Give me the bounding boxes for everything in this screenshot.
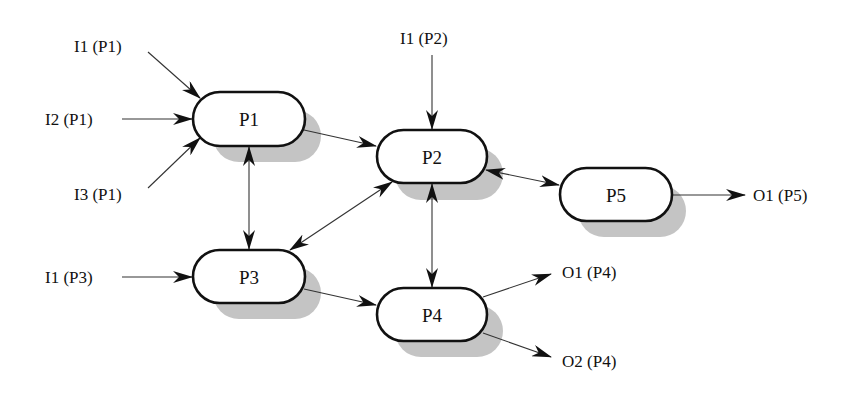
edge-i1p1 <box>148 52 200 98</box>
edge-p2-p3 <box>290 182 392 250</box>
node-p5: P5 <box>560 168 672 221</box>
node-p1: P1 <box>193 92 305 146</box>
input-label-i1-p1: I1 (P1) <box>74 37 122 56</box>
node-p3: P3 <box>193 250 305 303</box>
node-p4: P4 <box>377 288 487 341</box>
input-label-i1-p2: I1 (P2) <box>400 29 448 48</box>
output-label-o1-p5: O1 (P5) <box>753 186 807 205</box>
node-label: P2 <box>422 147 442 168</box>
output-label-o1-p4: O1 (P4) <box>562 263 616 282</box>
input-label-i1-p3: I1 (P3) <box>45 268 93 287</box>
edge-i3p1 <box>148 138 200 188</box>
node-label: P3 <box>239 267 259 288</box>
edge-p4-o1 <box>483 274 551 297</box>
input-label-i3-p1: I3 (P1) <box>74 185 122 204</box>
output-label-o2-p4: O2 (P4) <box>562 352 616 371</box>
node-label: P4 <box>422 305 443 326</box>
node-label: P5 <box>606 185 626 206</box>
input-label-i2-p1: I2 (P1) <box>45 110 93 129</box>
process-diagram: P1 P2 P3 P4 P5 I1 (P1) I2 (P1) I3 (P1) I… <box>0 0 867 401</box>
node-p2: P2 <box>377 130 487 183</box>
node-label: P1 <box>239 109 259 130</box>
